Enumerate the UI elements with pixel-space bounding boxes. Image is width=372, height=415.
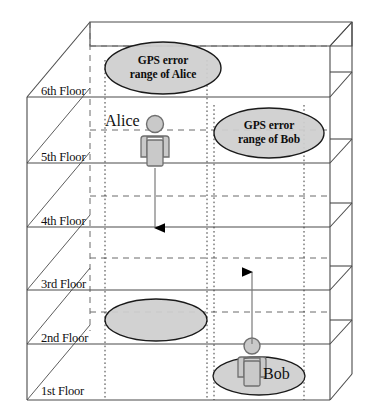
floor-6-right-perspective (330, 72, 352, 97)
alice-legs (147, 140, 163, 166)
alice-person-icon (141, 116, 169, 167)
roof-top-face (90, 22, 352, 46)
floor-2-right-perspective (330, 320, 352, 344)
bottom-right-perspective-edge (330, 374, 352, 400)
floor-label-5: 5th Floor (41, 150, 85, 165)
gps-error-alice-callout-line2: range of Alice (113, 68, 213, 81)
floor-label-6: 6th Floor (41, 84, 85, 99)
floor-label-3: 3rd Floor (41, 277, 86, 292)
floor-3-right-perspective (330, 266, 352, 290)
floor-6-right-top-perspective (330, 22, 352, 46)
diagram-canvas: 6th Floor 5th Floor 4th Floor 3rd Floor … (0, 0, 372, 415)
alice-head (147, 116, 164, 133)
floor-label-1: 1st Floor (41, 384, 84, 399)
alice-error-ellipse-floor2 (105, 299, 207, 341)
bob-legs (244, 361, 260, 386)
gps-error-bob-callout-line1: GPS error (219, 119, 319, 132)
gps-error-bob-callout-line2: range of Bob (219, 133, 319, 146)
floor-label-2: 2nd Floor (41, 331, 88, 346)
gps-error-alice-callout-line1: GPS error (113, 54, 213, 67)
floor-4-right-perspective (330, 203, 352, 227)
alice-label: Alice (105, 112, 140, 130)
floor-label-4: 4th Floor (41, 214, 85, 229)
bob-label: Bob (263, 365, 290, 383)
floor-5-right-perspective (330, 139, 352, 163)
